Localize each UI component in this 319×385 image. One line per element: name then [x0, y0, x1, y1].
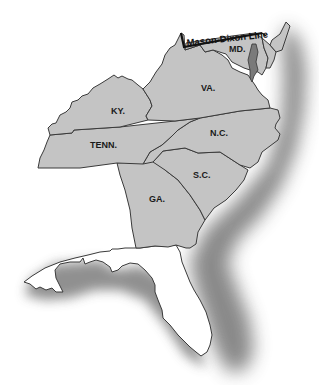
label-ky: KY.: [111, 106, 125, 116]
label-sc: S.C.: [193, 170, 211, 180]
southern-states-map: Mason-Dixon Line MD. VA. KY. TENN. N.C. …: [0, 0, 319, 385]
label-md: MD.: [229, 44, 246, 54]
state-florida: [24, 245, 212, 356]
label-tenn: TENN.: [90, 140, 117, 150]
label-ga: GA.: [149, 194, 165, 204]
label-va: VA.: [201, 83, 215, 93]
label-nc: N.C.: [210, 128, 228, 138]
